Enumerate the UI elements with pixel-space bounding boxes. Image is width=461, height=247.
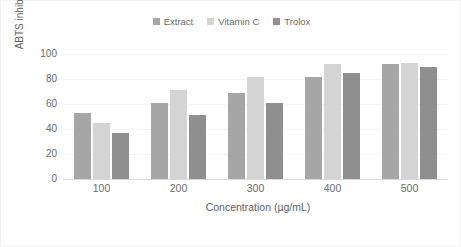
x-axis-tick-label: 100 xyxy=(63,182,140,194)
bar-group xyxy=(294,54,371,179)
bar[interactable] xyxy=(170,90,187,179)
y-axis-ticks: 100806040200 xyxy=(21,54,57,179)
y-axis-tick-label: 0 xyxy=(29,174,57,184)
legend-label: Trolox xyxy=(284,17,310,27)
bar[interactable] xyxy=(228,93,245,179)
legend-label: Extract xyxy=(164,17,194,27)
legend-label: Vitamin C xyxy=(218,17,259,27)
chart-legend: Extract Vitamin C Trolox xyxy=(1,17,461,27)
bar[interactable] xyxy=(151,103,168,179)
bar-groups xyxy=(63,54,448,179)
y-axis-tick-label: 20 xyxy=(29,149,57,159)
x-axis-tick-label: 500 xyxy=(371,182,448,194)
legend-item-vitamin-c[interactable]: Vitamin C xyxy=(207,17,259,27)
bar[interactable] xyxy=(93,123,110,179)
bar-group xyxy=(63,54,140,179)
bar[interactable] xyxy=(420,67,437,180)
legend-item-trolox[interactable]: Trolox xyxy=(273,17,310,27)
bar[interactable] xyxy=(382,64,399,179)
y-axis-tick-label: 100 xyxy=(29,49,57,59)
legend-swatch-icon xyxy=(153,18,160,25)
legend-swatch-icon xyxy=(207,18,214,25)
x-axis-tick-label: 300 xyxy=(217,182,294,194)
bar[interactable] xyxy=(343,73,360,179)
x-axis-tick-label: 400 xyxy=(294,182,371,194)
bar-group xyxy=(140,54,217,179)
chart-container: Extract Vitamin C Trolox ABTS inhibition… xyxy=(0,0,461,247)
bar[interactable] xyxy=(74,113,91,179)
bar-group xyxy=(217,54,294,179)
bar[interactable] xyxy=(112,133,129,179)
bar[interactable] xyxy=(324,64,341,179)
bar[interactable] xyxy=(247,77,264,180)
bar[interactable] xyxy=(305,77,322,180)
x-axis-line xyxy=(63,179,448,180)
bar-group xyxy=(371,54,448,179)
bar[interactable] xyxy=(401,63,418,179)
plot-area xyxy=(63,54,448,179)
x-axis-title: Concentration (µg/mL) xyxy=(63,201,453,213)
x-axis-ticks: 100200300400500 xyxy=(63,182,448,194)
legend-swatch-icon xyxy=(273,18,280,25)
y-axis-tick-label: 40 xyxy=(29,124,57,134)
bar[interactable] xyxy=(266,103,283,179)
legend-item-extract[interactable]: Extract xyxy=(153,17,194,27)
x-axis-tick-label: 200 xyxy=(140,182,217,194)
bar[interactable] xyxy=(189,115,206,179)
y-axis-tick-label: 80 xyxy=(29,74,57,84)
y-axis-tick-label: 60 xyxy=(29,99,57,109)
